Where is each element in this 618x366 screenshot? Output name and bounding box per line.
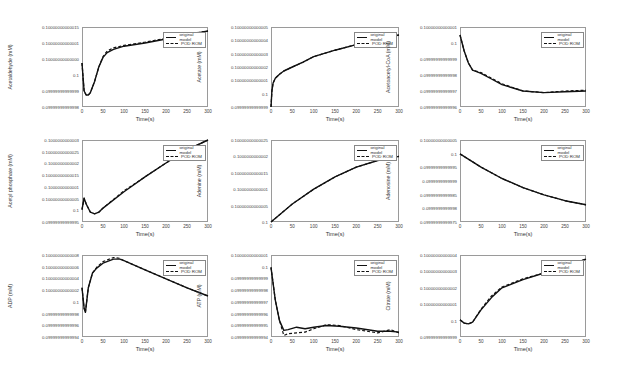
y-tick-label: 0.09999999999999 <box>387 335 457 340</box>
x-tick-label: 200 <box>540 109 548 114</box>
y-tick-label: 0.09999999999998 <box>9 105 79 110</box>
y-tick-label: 0.10000000000015 <box>198 170 268 175</box>
y-tick-label: 0.09999999999995 <box>387 165 457 170</box>
y-tick-label: 0.10000000000004 <box>387 253 457 258</box>
y-tick-label: 0.09999999999997 <box>198 299 268 304</box>
y-tick-label: 0.09999999999994 <box>9 335 79 340</box>
y-tick-label: 0.10000000000015 <box>9 25 79 30</box>
y-tick-label: 0.1 <box>387 318 457 323</box>
y-tick-label: 0.09999999999999 <box>9 89 79 94</box>
x-tick-label: 250 <box>561 339 569 344</box>
x-tick-label: 200 <box>162 339 170 344</box>
y-tick-label: 0.1 <box>198 264 268 269</box>
x-tick-label: 200 <box>162 224 170 229</box>
y-tick-label: 0.10000000000001 <box>198 253 268 258</box>
x-tick-label: 0 <box>270 109 273 114</box>
legend-item-rom: POD ROM <box>544 153 581 159</box>
solid-line-swatch-icon <box>166 150 176 151</box>
x-tick-label: 150 <box>331 109 339 114</box>
x-tick-label: 250 <box>183 109 191 114</box>
x-tick-label: 300 <box>204 339 212 344</box>
x-tick-label: 50 <box>100 224 105 229</box>
x-tick-label: 150 <box>519 224 527 229</box>
x-tick-label: 300 <box>204 224 212 229</box>
legend-item-rom: POD ROM <box>544 268 581 274</box>
x-tick-label: 200 <box>540 224 548 229</box>
y-tick-label: 0.10000000000005 <box>387 138 457 143</box>
x-tick-label: 0 <box>81 224 84 229</box>
dashed-line-swatch-icon <box>166 43 178 44</box>
original-model-line <box>271 267 399 332</box>
dashed-line-swatch-icon <box>357 156 369 157</box>
x-tick-label: 0 <box>81 339 84 344</box>
x-tick-label: 0 <box>270 339 273 344</box>
y-axis-label: Acetoacetyl-CoA (mM) <box>385 22 391 112</box>
y-axis-label: Citrate (mM) <box>385 251 391 341</box>
y-tick-label: 0.1000000000003 <box>9 138 79 143</box>
dashed-line-swatch-icon <box>544 43 556 44</box>
y-tick-label: 0.09999999999996 <box>198 311 268 316</box>
x-tick-label: 100 <box>310 224 318 229</box>
y-tick-label: 0.09999999999996 <box>387 105 457 110</box>
y-tick-label: 0.10000000000002 <box>387 285 457 290</box>
x-tick-label: 50 <box>290 224 295 229</box>
y-tick-label: 0.1000000000001 <box>198 187 268 192</box>
y-tick-label: 0.09999999999995 <box>198 323 268 328</box>
x-axis-label: Time(s) <box>326 116 345 122</box>
x-tick-label: 100 <box>120 339 128 344</box>
y-axis-label: Adenosine (mM) <box>385 136 391 226</box>
y-tick-label: 0.10000000000025 <box>9 149 79 154</box>
x-tick-label: 100 <box>120 109 128 114</box>
dashed-line-swatch-icon <box>357 271 369 272</box>
y-tick-label: 0.09999999999999 <box>198 105 268 110</box>
y-axis-label: Acetate (mM) <box>196 22 202 112</box>
pod-rom-line <box>271 267 399 335</box>
solid-line-swatch-icon <box>544 37 554 38</box>
y-axis-label: ADP (mM) <box>7 251 13 341</box>
y-tick-label: 0.10000000000005 <box>9 196 79 201</box>
x-tick-label: 200 <box>162 109 170 114</box>
y-tick-label: 0.1 <box>387 151 457 156</box>
y-tick-label: 0.10000000000025 <box>198 138 268 143</box>
y-tick-label: 0.10000000000002 <box>9 288 79 293</box>
x-tick-label: 150 <box>141 109 149 114</box>
x-tick-label: 50 <box>100 339 105 344</box>
y-tick-label: 0.09999999999996 <box>9 323 79 328</box>
x-tick-label: 150 <box>141 224 149 229</box>
y-axis-label: Acetaldehyde (mM) <box>7 22 13 112</box>
original-model-line <box>460 154 586 205</box>
x-tick-label: 150 <box>331 224 339 229</box>
y-tick-label: 0.1 <box>9 299 79 304</box>
y-tick-label: 0.10000000000002 <box>198 65 268 70</box>
x-tick-label: 200 <box>352 339 360 344</box>
x-tick-label: 250 <box>183 339 191 344</box>
y-axis-label: ATP (mM) <box>196 251 202 341</box>
x-tick-label: 100 <box>310 339 318 344</box>
x-tick-label: 150 <box>331 339 339 344</box>
legend: original modelPOD ROM <box>541 32 584 48</box>
y-tick-label: 0.10000000000003 <box>387 269 457 274</box>
y-tick-label: 0.09999999999994 <box>198 335 268 340</box>
x-tick-label: 0 <box>81 109 84 114</box>
y-tick-label: 0.09999999999998 <box>387 73 457 78</box>
x-tick-label: 0 <box>459 339 462 344</box>
x-tick-label: 50 <box>478 224 483 229</box>
y-tick-label: 0.09999999999998 <box>9 311 79 316</box>
x-tick-label: 250 <box>374 224 382 229</box>
y-tick-label: 0.1 <box>387 41 457 46</box>
x-tick-label: 250 <box>561 224 569 229</box>
legend-item-rom: POD ROM <box>544 40 581 46</box>
x-tick-label: 150 <box>141 339 149 344</box>
y-tick-label: 0.10000000000001 <box>9 41 79 46</box>
x-tick-label: 300 <box>582 109 590 114</box>
y-tick-label: 0.0999999999999 <box>387 179 457 184</box>
y-tick-label: 0.10000000000015 <box>9 173 79 178</box>
x-axis-label: Time(s) <box>136 116 155 122</box>
x-tick-label: 0 <box>459 224 462 229</box>
dashed-line-swatch-icon <box>544 271 556 272</box>
x-tick-label: 100 <box>120 224 128 229</box>
y-tick-label: 0.1 <box>198 91 268 96</box>
solid-line-swatch-icon <box>357 265 367 266</box>
legend-label: POD ROM <box>559 269 580 274</box>
x-tick-label: 200 <box>352 224 360 229</box>
